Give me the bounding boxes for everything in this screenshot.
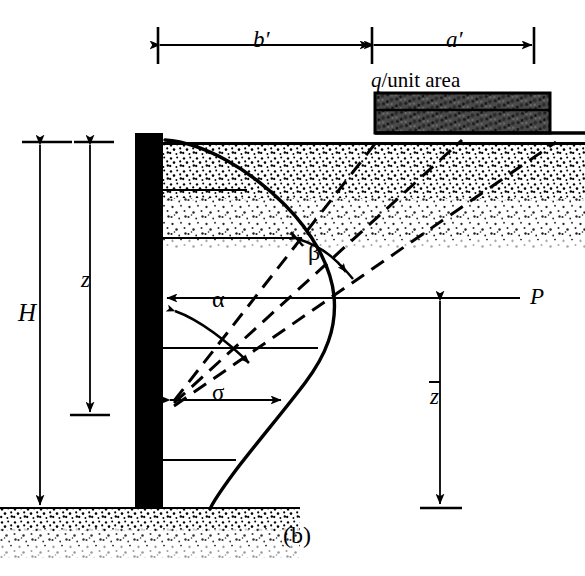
figure-caption: (b) xyxy=(283,523,311,547)
retaining-wall xyxy=(135,133,163,512)
dimension-label-H: H xyxy=(18,300,36,325)
dimension-label-z-bar: z xyxy=(430,385,439,408)
z-bar-symbol: z xyxy=(430,385,439,408)
dimension-label-a-prime: a′ xyxy=(446,28,463,51)
dimension-label-b-prime: b′ xyxy=(253,28,270,51)
angle-label-beta: β xyxy=(308,240,320,264)
dimension-z-bar xyxy=(420,301,462,508)
resultant-force-label: P xyxy=(530,285,544,308)
surcharge-unit-text: /unit area xyxy=(382,68,461,92)
base-soil xyxy=(0,509,300,558)
surcharge-label: q/unit area xyxy=(371,70,460,91)
angle-label-alpha: α xyxy=(212,287,225,311)
figure-container: b′ a′ q/unit area H z z P σ α β (b) xyxy=(0,0,585,576)
stress-label-sigma: σ xyxy=(212,381,224,404)
surcharge-q-symbol: q xyxy=(371,68,382,92)
dimension-z xyxy=(70,142,114,415)
surcharge-footing xyxy=(375,93,585,133)
dimension-label-z: z xyxy=(81,268,90,291)
